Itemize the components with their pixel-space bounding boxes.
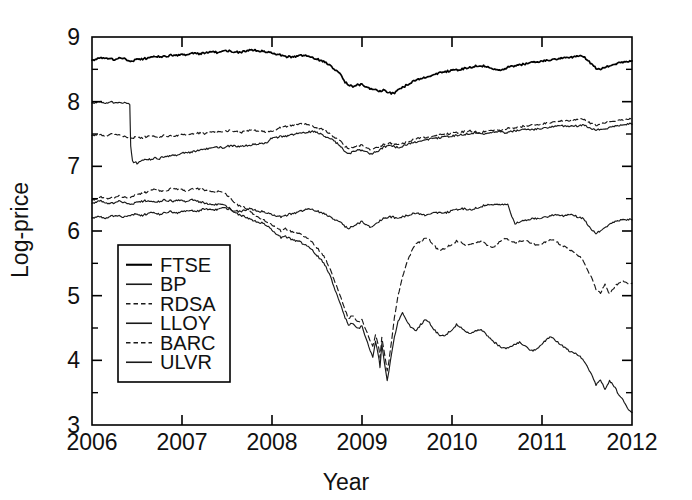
log-price-line-chart: 20062007200820092010201120123456789 FTSE… <box>0 0 692 500</box>
chart-legend: FTSEBPRDSALLOYBARCULVR <box>118 245 230 382</box>
x-axis-tick-label: 2011 <box>517 429 566 455</box>
series-line-ulvr <box>92 204 632 234</box>
y-axis-tick-label: 8 <box>67 89 80 115</box>
x-axis-tick-label: 2009 <box>336 429 387 455</box>
chart-figure: 20062007200820092010201120123456789 FTSE… <box>0 0 692 500</box>
x-axis-tick-label: 2007 <box>156 429 207 455</box>
y-axis-tick-label: 5 <box>67 283 80 309</box>
x-axis-tick-label: 2010 <box>426 429 477 455</box>
x-axis-label: Year <box>323 469 370 495</box>
legend-label-ulvr: ULVR <box>160 351 212 373</box>
y-axis-tick-label: 3 <box>67 412 80 438</box>
tick-label-layer: 20062007200820092010201120123456789 <box>66 24 657 455</box>
y-axis-label: Log-price <box>7 182 33 278</box>
x-axis-tick-label: 2012 <box>606 429 657 455</box>
series-line-rdsa <box>92 118 632 150</box>
y-axis-tick-label: 4 <box>67 347 80 373</box>
series-line-bp <box>92 101 632 164</box>
x-axis-tick-label: 2008 <box>246 429 297 455</box>
series-line-ftse <box>92 50 632 94</box>
y-axis-tick-label: 7 <box>67 153 80 179</box>
y-axis-tick-label: 6 <box>67 218 80 244</box>
y-axis-tick-label: 9 <box>67 24 80 50</box>
